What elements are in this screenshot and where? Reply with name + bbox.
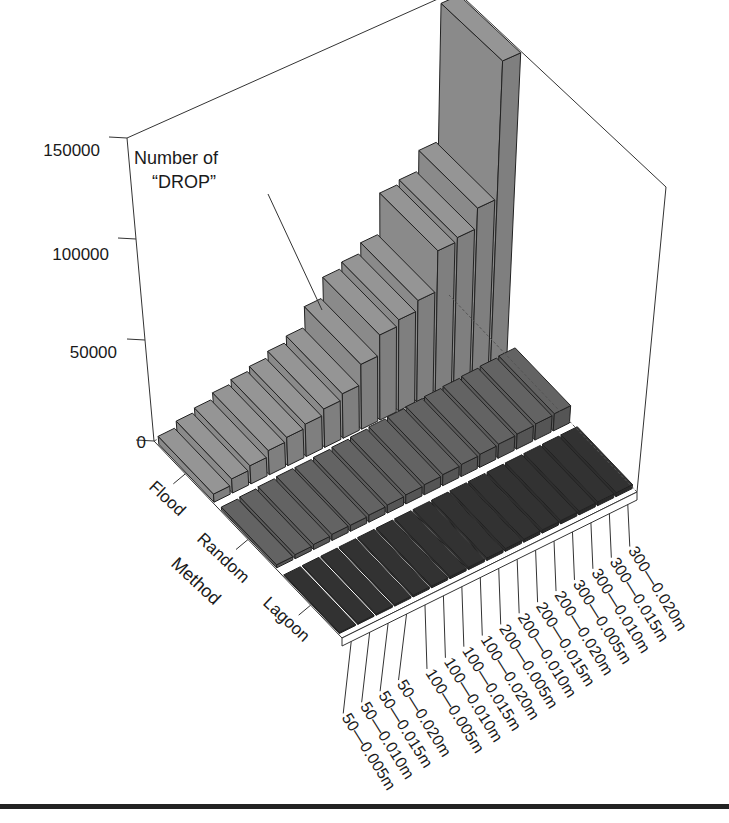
category-tick (343, 641, 351, 713)
method-tick (299, 605, 311, 615)
category-tick (480, 578, 482, 636)
category-tick (425, 605, 427, 669)
z-axis-line (127, 138, 154, 441)
box-top-back-edge (127, 0, 456, 138)
bars (158, 0, 632, 634)
category-tick (536, 550, 538, 602)
z-tick-label: 0 (137, 433, 146, 452)
bar-front (361, 356, 378, 429)
bottom-divider (0, 804, 729, 809)
category-tick (499, 568, 501, 624)
z-tick-label: 150000 (43, 141, 100, 160)
method-label-flood: Flood (145, 477, 189, 520)
z-tick-label: 100000 (52, 245, 109, 264)
category-tick (554, 541, 556, 591)
bar-front (435, 243, 455, 393)
category-tick (362, 632, 370, 702)
z-title-leader (268, 194, 322, 310)
category-tick (399, 614, 407, 680)
z-tick (127, 339, 145, 340)
z-axis-title: “DROP” (152, 172, 216, 192)
bar-front (398, 312, 415, 411)
z-axis-title: Number of (134, 148, 219, 168)
category-tick (380, 623, 388, 691)
category-tick (443, 596, 445, 658)
category-tick (517, 559, 519, 613)
category-tick (609, 514, 611, 558)
category-tick (462, 587, 464, 647)
method-tick (236, 540, 248, 550)
method-tick (173, 474, 185, 484)
z-tick (118, 238, 136, 239)
z-tick (109, 137, 127, 138)
method-label-lagoon: Lagoon (259, 593, 313, 646)
bar-front (380, 327, 397, 420)
category-tick (591, 523, 593, 569)
bar-front (342, 386, 359, 439)
bar3d-chart: 0 50000 100000 150000 Number of “DROP” F… (0, 0, 729, 823)
bar-front (417, 292, 435, 401)
z-tick-label: 50000 (70, 343, 117, 362)
category-tick (572, 532, 574, 580)
category-tick (628, 505, 630, 547)
box-right-vertical-edge (637, 187, 666, 492)
